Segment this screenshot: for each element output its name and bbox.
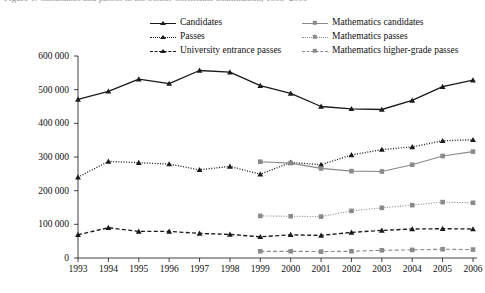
- data-point-marker: [258, 159, 263, 164]
- data-point-marker: [288, 249, 293, 254]
- data-point-marker: [470, 77, 476, 82]
- data-point-marker: [380, 206, 385, 211]
- data-point-marker: [440, 247, 445, 252]
- data-point-marker: [319, 249, 324, 254]
- data-point-marker: [380, 169, 385, 174]
- data-point-marker: [440, 154, 445, 159]
- data-point-marker: [105, 158, 111, 163]
- series-mathematics-passes: [258, 200, 475, 219]
- series-line: [78, 71, 473, 110]
- series-passes: [75, 137, 476, 180]
- data-point-marker: [319, 214, 324, 219]
- series-candidates: [75, 68, 476, 112]
- plot-area: [0, 0, 485, 293]
- data-point-marker: [258, 214, 263, 219]
- data-point-marker: [380, 248, 385, 253]
- data-point-marker: [410, 162, 415, 167]
- data-point-marker: [410, 248, 415, 253]
- data-point-marker: [349, 249, 354, 254]
- data-point-marker: [410, 203, 415, 208]
- series-line: [78, 140, 473, 177]
- data-point-marker: [288, 214, 293, 219]
- series-mathematics-higher-grade-passes: [258, 247, 475, 254]
- data-point-marker: [440, 200, 445, 205]
- data-point-marker: [471, 200, 476, 205]
- data-point-marker: [288, 161, 293, 166]
- series-university-entrance-passes: [75, 225, 476, 239]
- data-point-marker: [166, 161, 172, 166]
- data-point-marker: [258, 249, 263, 254]
- data-point-marker: [227, 164, 233, 169]
- data-point-marker: [319, 166, 324, 171]
- data-point-marker: [379, 147, 385, 152]
- data-point-marker: [349, 169, 354, 174]
- data-point-marker: [75, 174, 81, 179]
- data-point-marker: [471, 247, 476, 252]
- series-mathematics-candidates: [258, 149, 475, 173]
- data-point-marker: [349, 152, 355, 157]
- data-point-marker: [471, 149, 476, 154]
- data-point-marker: [470, 226, 476, 231]
- figure-container: Figure 1. Candidates and passes in the S…: [0, 0, 485, 293]
- data-point-marker: [349, 209, 354, 214]
